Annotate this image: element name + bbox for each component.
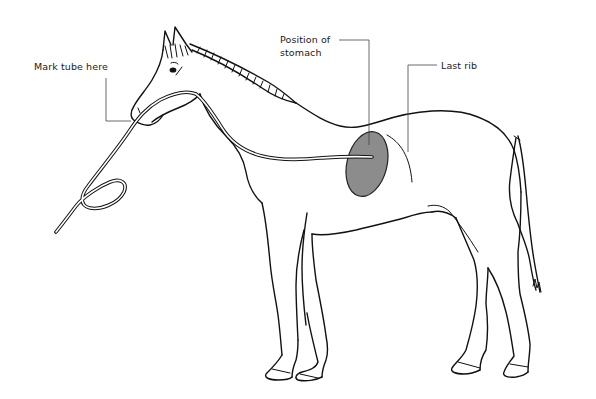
stomach-region	[340, 127, 395, 201]
label-stomach-position: Position of stomach	[280, 33, 330, 59]
nasogastric-tube	[56, 92, 372, 232]
diagram-canvas: Mark tube here Position of stomach Last …	[0, 0, 596, 399]
label-stomach-line2: stomach	[280, 46, 330, 59]
leader-stomach	[339, 40, 369, 145]
leader-mark-tube	[106, 78, 131, 121]
label-stomach-line1: Position of	[280, 33, 330, 46]
horse-outline	[131, 27, 541, 381]
label-mark-tube: Mark tube here	[34, 60, 108, 73]
leader-last-rib	[408, 65, 437, 152]
label-last-rib: Last rib	[441, 59, 477, 72]
